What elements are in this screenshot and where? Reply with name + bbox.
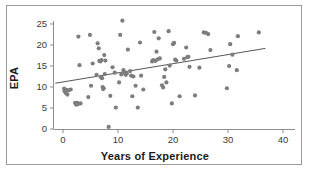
data-point (163, 67, 167, 71)
figure-container: 0510152025010203040 Years of Experience … (0, 0, 310, 176)
y-tick-label: 10 (36, 81, 47, 92)
data-point (257, 30, 261, 34)
y-tick-label: 5 (42, 102, 47, 113)
data-points-group (62, 19, 261, 129)
data-point (230, 53, 234, 57)
data-point (157, 36, 161, 40)
data-point (225, 86, 229, 90)
x-tick-label: 10 (113, 134, 124, 145)
data-point (114, 105, 118, 109)
data-point (154, 50, 158, 54)
data-point (174, 58, 178, 62)
data-point (131, 74, 135, 78)
data-point (91, 61, 95, 65)
data-point (178, 94, 182, 98)
data-point (76, 35, 80, 39)
x-axis-label: Years of Experience (0, 150, 310, 162)
data-point (110, 65, 114, 69)
y-tick-label: 20 (36, 39, 47, 50)
data-point (99, 58, 103, 62)
data-point (134, 84, 138, 88)
data-point (125, 71, 129, 75)
data-point (96, 41, 100, 45)
data-point (197, 66, 201, 70)
data-point (69, 87, 73, 91)
data-point (102, 53, 106, 57)
data-point (77, 63, 81, 67)
data-point (164, 80, 168, 84)
data-point (167, 29, 171, 33)
data-point (100, 76, 104, 80)
data-point (86, 95, 90, 99)
tick-labels-group: 0510152025010203040 (36, 18, 288, 145)
data-point (206, 32, 210, 36)
data-point (236, 34, 240, 38)
data-point (158, 56, 162, 60)
y-tick-label: 15 (36, 60, 47, 71)
data-point (161, 85, 165, 89)
data-point (136, 105, 140, 109)
data-point (168, 63, 172, 67)
x-tick-label: 40 (278, 134, 289, 145)
x-tick-label: 0 (60, 134, 65, 145)
data-point (208, 48, 212, 52)
data-point (193, 93, 197, 97)
axes-group (54, 21, 296, 130)
data-point (235, 68, 239, 72)
data-point (88, 33, 92, 37)
data-point (184, 45, 188, 49)
data-point (113, 71, 117, 75)
x-tick-label: 30 (223, 134, 234, 145)
data-point (79, 101, 83, 105)
data-point (120, 19, 124, 23)
data-point (117, 80, 121, 84)
data-point (97, 46, 101, 50)
data-point (170, 101, 174, 105)
data-point (89, 84, 93, 88)
data-point (107, 125, 111, 129)
data-point (139, 74, 143, 78)
data-point (186, 55, 190, 59)
data-point (128, 69, 132, 73)
data-point (108, 94, 112, 98)
data-point (94, 73, 98, 77)
y-tick-label: 25 (36, 18, 47, 29)
data-point (187, 65, 191, 69)
data-point (152, 30, 156, 34)
data-point (228, 42, 232, 46)
data-point (162, 75, 166, 79)
y-tick-label: 0 (42, 123, 47, 134)
data-point (102, 86, 106, 90)
y-axis-label: EPA (8, 48, 20, 108)
data-point (126, 48, 130, 52)
data-point (141, 87, 145, 91)
data-point (172, 41, 176, 45)
data-point (130, 94, 134, 98)
data-point (103, 72, 107, 76)
x-tick-label: 20 (168, 134, 179, 145)
data-point (138, 40, 142, 44)
data-point (65, 92, 69, 96)
data-point (103, 58, 107, 62)
data-point (118, 33, 122, 37)
data-point (227, 64, 231, 68)
